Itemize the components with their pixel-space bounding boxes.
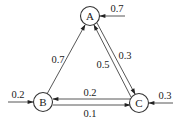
input-arrow-a: 0.7 (100, 3, 125, 16)
node-a: A (81, 7, 100, 26)
node-c: C (130, 94, 149, 113)
node-label-b: B (39, 96, 46, 108)
edge-label-b-to-c: 0.1 (83, 108, 96, 119)
edge-c-to-b: 0.2 (53, 87, 130, 99)
node-label-a: A (86, 10, 94, 22)
input-label-b: 0.2 (11, 89, 24, 100)
node-b: B (34, 93, 53, 112)
edge-label-a-to-c: 0.3 (118, 50, 131, 61)
edge-b-to-c: 0.1 (53, 105, 130, 119)
state-diagram: 0.7 0.2 0.3 0.7 0.5 0.3 0.2 0.1 A B (0, 0, 178, 125)
input-label-c: 0.3 (158, 90, 171, 101)
input-label-a: 0.7 (110, 3, 123, 14)
edge-label-c-to-a: 0.5 (96, 59, 109, 70)
input-arrow-c: 0.3 (149, 90, 173, 103)
node-label-c: C (135, 97, 142, 109)
input-arrow-b: 0.2 (8, 89, 33, 102)
edge-label-c-to-b: 0.2 (83, 87, 96, 98)
edge-c-to-a: 0.5 (94, 25, 131, 97)
edge-label-b-to-a: 0.7 (51, 54, 64, 65)
edge-b-to-a: 0.7 (47, 25, 85, 94)
